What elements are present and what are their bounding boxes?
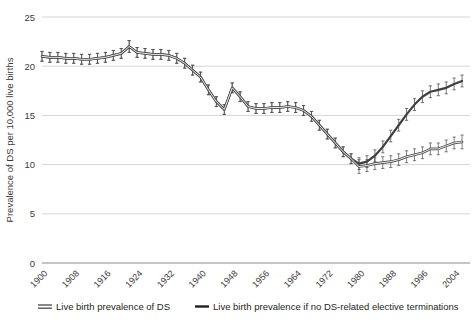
x-axis-ticks: 1900190819161924193219401948195619641972… [28, 268, 461, 289]
x-tick-label: 1932 [155, 268, 176, 289]
y-tick-label: 5 [30, 208, 35, 219]
y-axis-label: Prevalence of DS per 10,000 live births [4, 57, 15, 222]
x-tick-label: 1956 [250, 268, 271, 289]
legend-item-1: Live birth prevalence if no DS-related e… [195, 301, 459, 312]
error-bars [40, 41, 463, 170]
y-tick-label: 25 [24, 12, 35, 23]
series-1 [40, 41, 463, 174]
gridlines [42, 17, 470, 263]
x-tick-label: 1908 [60, 268, 81, 289]
x-tick-label: 1996 [409, 268, 430, 289]
legend-item-0: Live birth prevalence of DS [38, 301, 170, 312]
y-tick-label: 10 [24, 159, 35, 170]
legend-label: Live birth prevalence of DS [56, 301, 170, 312]
x-tick-label: 1924 [123, 268, 144, 289]
x-tick-label: 1900 [28, 268, 49, 289]
legend-label: Live birth prevalence if no DS-related e… [213, 301, 459, 312]
chart-legend: Live birth prevalence of DSLive birth pr… [38, 301, 459, 312]
series-line [42, 47, 462, 164]
series-line-outer [42, 47, 462, 167]
x-tick-label: 1940 [187, 268, 208, 289]
x-tick-label: 1988 [377, 268, 398, 289]
chart-figure: 0510152025 19001908191619241932194019481… [0, 0, 476, 324]
y-tick-label: 20 [24, 61, 35, 72]
x-tick-label: 1980 [345, 268, 366, 289]
y-axis-ticks: 0510152025 [24, 12, 35, 269]
y-tick-label: 15 [24, 110, 35, 121]
x-tick-label: 1964 [282, 268, 303, 289]
y-tick-label: 0 [30, 258, 35, 269]
prevalence-line-chart: 0510152025 19001908191619241932194019481… [0, 0, 476, 324]
x-tick-label: 1972 [313, 268, 334, 289]
series-0 [40, 41, 463, 170]
x-tick-label: 1948 [218, 268, 239, 289]
x-tick-label: 2004 [440, 268, 461, 289]
x-tick-label: 1916 [92, 268, 113, 289]
data-series-group [40, 41, 463, 174]
